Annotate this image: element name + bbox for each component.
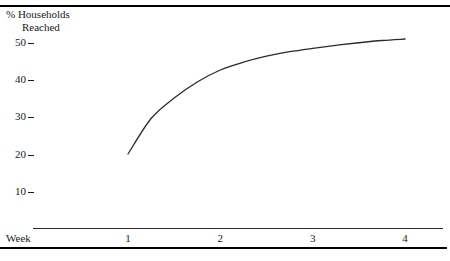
chart-figure: % Households Reached 1020304050 Week 123… <box>0 0 450 261</box>
x-axis-line <box>33 228 443 229</box>
x-tick-3: 3 <box>303 232 323 245</box>
x-tick-1: 1 <box>118 232 138 245</box>
x-tick-4: 4 <box>395 232 415 245</box>
plot-area <box>0 0 450 261</box>
x-axis-title: Week <box>6 232 31 245</box>
x-tick-2: 2 <box>210 232 230 245</box>
bottom-rule <box>0 247 447 249</box>
reach-curve <box>128 39 405 154</box>
